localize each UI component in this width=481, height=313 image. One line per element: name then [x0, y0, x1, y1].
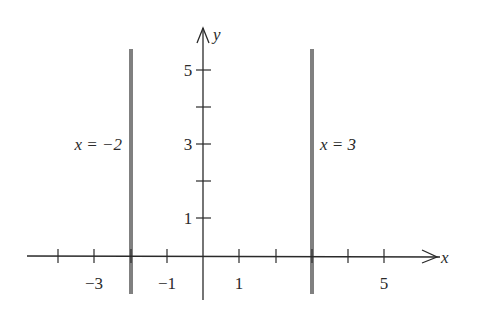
line-label-x-neg2: x = −2: [74, 135, 123, 154]
coordinate-plane: x y −3 −1 1 5 1 3 5 x = −2 x = 3: [0, 0, 481, 313]
line-label-x-3: x = 3: [319, 135, 356, 154]
graph-canvas: x y −3 −1 1 5 1 3 5 x = −2 x = 3: [0, 0, 481, 313]
x-axis-label: x: [440, 248, 449, 267]
y-tick-label-3: 3: [184, 135, 193, 154]
y-axis-label: y: [211, 25, 221, 44]
x-tick-label-neg1: −1: [158, 274, 176, 293]
x-tick-label-5: 5: [380, 274, 389, 293]
x-tick-label-neg3: −3: [85, 274, 103, 293]
x-axis: [27, 256, 440, 257]
y-tick-label-1: 1: [184, 209, 193, 228]
y-tick-label-5: 5: [184, 61, 193, 80]
x-tick-label-1: 1: [235, 274, 244, 293]
